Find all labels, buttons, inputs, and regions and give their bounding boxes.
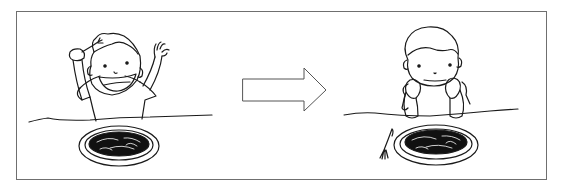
child-fist (69, 49, 84, 61)
child-arm-raised-right (143, 56, 162, 90)
child-shirt-left (77, 82, 156, 121)
table-edge-left (29, 115, 212, 122)
illustration-canvas (0, 0, 564, 192)
before-panel (29, 33, 212, 166)
fork-down-icon (380, 129, 393, 159)
spaghetti-left (89, 132, 149, 156)
child-hair-right (408, 48, 458, 55)
child-hair-left (94, 42, 138, 54)
child-hand-chin-left (406, 80, 421, 99)
child-arm-raised-left (73, 60, 90, 100)
right-arrow-icon (243, 68, 326, 111)
child-frown (424, 80, 446, 81)
table-edge-right (344, 109, 518, 116)
child-hand-chin-right (446, 78, 461, 98)
child-hand-open (154, 42, 169, 57)
child-head-right (405, 27, 459, 86)
after-panel (344, 27, 518, 165)
spaghetti-right (405, 130, 467, 154)
